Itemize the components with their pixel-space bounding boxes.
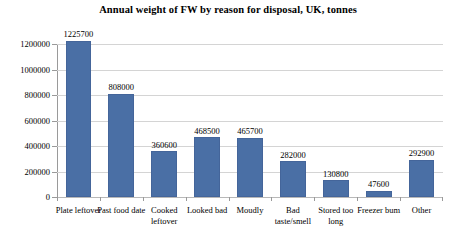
y-axis-tick-label: 200000 [0,168,50,177]
bar-group: 130800 [314,44,357,197]
x-axis-tick [186,197,187,201]
y-axis-tick [52,197,57,198]
x-axis-ticks [57,197,443,202]
bar[interactable] [237,138,263,197]
y-axis-tick-label: 400000 [0,142,50,151]
y-axis-tick [52,121,57,122]
y-axis-tick [52,172,57,173]
bar[interactable] [66,41,92,197]
y-axis-tick [52,146,57,147]
bar-value-label: 292900 [386,149,456,158]
x-axis-labels: Plate leftoverPast food dateCooked lefto… [57,205,443,249]
bar-group: 468500 [186,44,229,197]
bar[interactable] [280,161,306,197]
bar[interactable] [409,160,435,197]
bar-group: 47600 [357,44,400,197]
y-axis-tick [52,44,57,45]
y-axis-tick [52,95,57,96]
bar[interactable] [151,151,177,197]
x-axis-tick [229,197,230,201]
bar-group: 808000 [100,44,143,197]
plot-area: 1225700808000360600468500465700282000130… [57,44,443,197]
x-axis-tick [400,197,401,201]
y-axis-tick-label: 0 [0,193,50,202]
bar-group: 465700 [229,44,272,197]
y-axis-tick-label: 1200000 [0,40,50,49]
x-axis-tick [143,197,144,201]
x-axis-tick [442,197,443,201]
x-axis-tick [314,197,315,201]
x-axis-tick [100,197,101,201]
bar-group: 292900 [400,44,443,197]
y-axis-tick-label: 600000 [0,117,50,126]
bar-chart: Annual weight of FW by reason for dispos… [0,0,456,250]
bar[interactable] [194,137,220,197]
bar-group: 1225700 [57,44,100,197]
y-axis-tick [52,70,57,71]
x-axis-tick [357,197,358,201]
chart-title: Annual weight of FW by reason for dispos… [0,4,456,15]
bar-value-label: 1225700 [43,30,114,39]
x-axis-category-label: Other [396,205,447,216]
bar-group: 360600 [143,44,186,197]
x-axis-tick [271,197,272,201]
y-axis-tick-label: 800000 [0,91,50,100]
y-axis-tick-label: 1000000 [0,66,50,75]
x-axis-tick [57,197,58,201]
